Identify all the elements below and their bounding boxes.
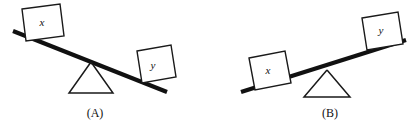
panel-a-block-x-label: x [39,16,45,28]
seesaw-figure-svg: x y (A) x y (B) [0,0,417,130]
panel-b-block-y-label: y [378,24,384,36]
panel-b-fulcrum-triangle [304,70,350,97]
panel-a-block-y [137,45,176,83]
panel-a: x y (A) [13,4,176,120]
panel-b: x y (B) [241,12,406,120]
panel-b-block-x-label: x [265,64,271,76]
panel-a-block-y-label: y [150,59,156,71]
panel-b-caption: (B) [322,106,338,120]
seesaw-figure-container: x y (A) x y (B) [0,0,417,130]
panel-a-caption: (A) [87,106,104,120]
